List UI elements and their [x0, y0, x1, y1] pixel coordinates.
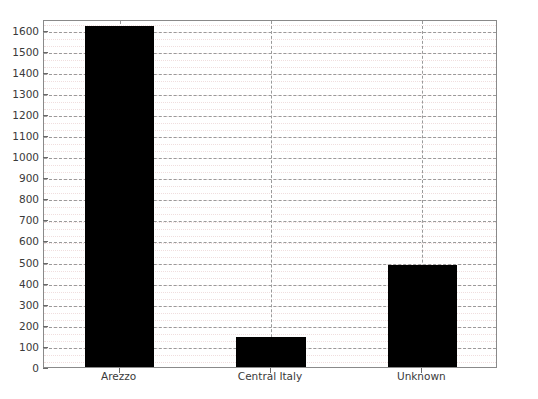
y-axis-tick-label: 200	[19, 321, 39, 332]
bar-arezzo[interactable]	[85, 26, 155, 367]
y-axis: 0100200300400500600700800900100011001200…	[0, 20, 39, 368]
bar-unknown[interactable]	[388, 265, 458, 367]
y-axis-tick-mark	[43, 94, 48, 95]
y-axis-tick-label: 500	[19, 257, 39, 268]
y-axis-tick-mark	[43, 199, 48, 200]
bar-chart: 0100200300400500600700800900100011001200…	[0, 0, 538, 399]
x-axis-tick-mark	[270, 368, 271, 373]
y-axis-tick-mark	[43, 284, 48, 285]
y-axis-tick-label: 400	[19, 278, 39, 289]
plot-area	[43, 20, 497, 368]
y-axis-tick-mark	[43, 326, 48, 327]
y-axis-tick-mark	[43, 368, 48, 369]
gridline-major-vertical	[271, 21, 272, 367]
y-axis-tick-mark	[43, 136, 48, 137]
x-axis-tick-mark	[119, 368, 120, 373]
y-axis-tick-label: 300	[19, 299, 39, 310]
x-axis-tick-mark	[421, 368, 422, 373]
y-axis-tick-label: 1300	[12, 89, 39, 100]
y-axis-tick-mark	[43, 241, 48, 242]
y-axis-tick-label: 1200	[12, 110, 39, 121]
y-axis-tick-mark	[43, 178, 48, 179]
y-axis-tick-label: 1600	[12, 25, 39, 36]
y-axis-tick-label: 1000	[12, 152, 39, 163]
y-axis-tick-mark	[43, 73, 48, 74]
y-axis-tick-label: 700	[19, 215, 39, 226]
y-axis-tick-label: 900	[19, 173, 39, 184]
y-axis-tick-label: 800	[19, 194, 39, 205]
bar-central-italy[interactable]	[236, 337, 306, 367]
y-axis-tick-label: 100	[19, 342, 39, 353]
y-axis-tick-label: 1500	[12, 46, 39, 57]
y-axis-tick-label: 0	[32, 363, 39, 374]
y-axis-tick-label: 1400	[12, 67, 39, 78]
y-axis-tick-mark	[43, 305, 48, 306]
y-axis-tick-mark	[43, 347, 48, 348]
y-axis-tick-mark	[43, 157, 48, 158]
x-axis: ArezzoCentral ItalyUnknown	[43, 371, 497, 391]
y-axis-tick-mark	[43, 263, 48, 264]
y-axis-tick-mark	[43, 31, 48, 32]
y-axis-tick-label: 1100	[12, 131, 39, 142]
y-axis-tick-label: 600	[19, 236, 39, 247]
y-axis-tick-mark	[43, 115, 48, 116]
y-axis-tick-mark	[43, 52, 48, 53]
y-axis-tick-mark	[43, 220, 48, 221]
